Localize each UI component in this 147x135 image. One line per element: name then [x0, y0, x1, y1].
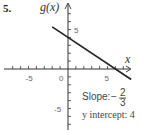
series — [52, 27, 131, 80]
x-tick-label: 0 — [59, 74, 64, 83]
chart: 5. g(x) x -5055-5 Slope: − 2 3 y interce… — [0, 0, 147, 135]
problem-number: 5. — [3, 2, 12, 14]
series-line — [52, 27, 131, 80]
y-tick-label: -5 — [54, 105, 62, 114]
y-axis-label: g(x) — [40, 0, 59, 14]
x-axis-label: x — [124, 52, 131, 66]
slope-sign: − — [111, 91, 117, 102]
slope-label: Slope: — [82, 91, 110, 102]
slope-annotation: Slope: − 2 3 — [82, 87, 126, 108]
x-tick-label: -5 — [26, 74, 34, 83]
y-tick-label: 5 — [74, 26, 79, 35]
x-tick-label: 5 — [105, 74, 110, 83]
slope-denominator: 3 — [120, 97, 126, 108]
intercept-label: y intercept: 4 — [82, 109, 135, 120]
